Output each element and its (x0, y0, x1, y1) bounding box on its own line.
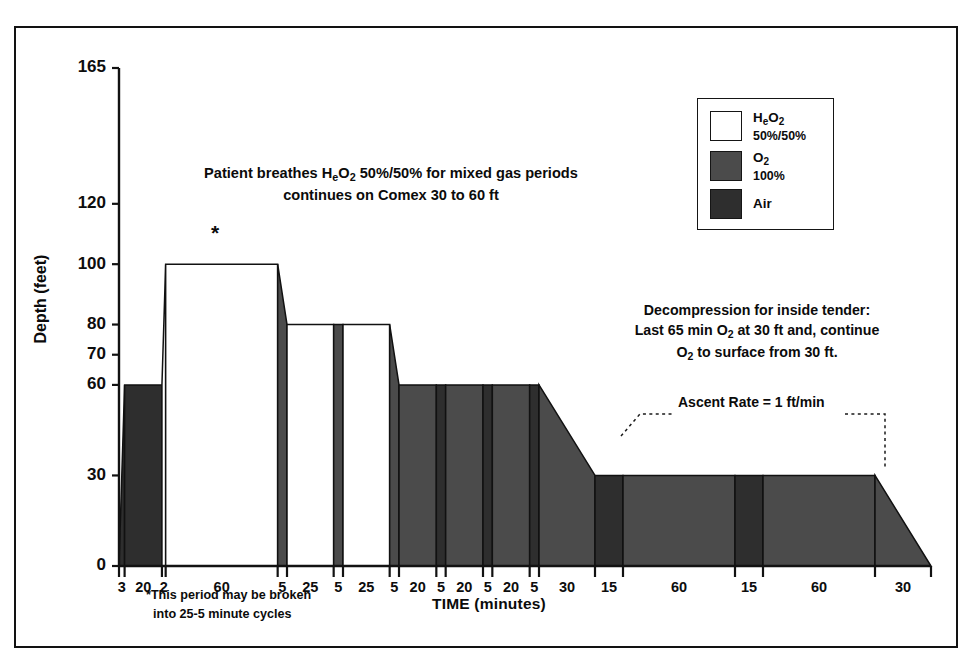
decomp-line-1: Decompression for inside tender: (644, 302, 870, 318)
legend-swatch-o2 (710, 151, 742, 181)
profile-segment (735, 475, 763, 566)
x-axis-tick-label: 20 (410, 579, 426, 595)
ascent-rate-label: Ascent Rate = 1 ft/min (678, 393, 825, 413)
profile-segment (278, 264, 287, 566)
legend-percent-heo2: 50%/50% (753, 128, 806, 144)
y-axis-tick-label: 0 (97, 555, 106, 574)
decompression-note: Decompression for inside tender: Last 65… (612, 300, 902, 364)
profile-segment (530, 385, 539, 566)
legend-percent-o2: 100% (753, 168, 785, 184)
x-axis-tick-label: 60 (811, 579, 827, 595)
x-axis-tick-label: 3 (118, 579, 126, 595)
x-axis-tick-label: 30 (559, 579, 575, 595)
x-axis-tick-label: 30 (895, 579, 911, 595)
profile-segment (166, 264, 278, 566)
asterisk-marker: * (211, 222, 219, 243)
profile-segment (446, 385, 483, 566)
profile-segment (763, 475, 875, 566)
profile-segment (492, 385, 529, 566)
profile-segment (399, 385, 436, 566)
legend-item-heo2: HeO2 50%/50% (710, 109, 806, 144)
x-axis-tick-label: 5 (390, 579, 398, 595)
decomp-line-3: O2 to surface from 30 ft. (676, 344, 837, 360)
y-axis-tick-label: 70 (87, 344, 106, 363)
legend-item-air: Air (710, 189, 772, 219)
y-axis-ticks: 030607080100120165 (78, 57, 119, 574)
x-axis-tick-label: 15 (741, 579, 757, 595)
x-axis-title: TIME (minutes) (432, 593, 546, 615)
x-axis-tick-label: 5 (334, 579, 342, 595)
y-axis-title: Depth (feet) (32, 239, 50, 359)
ascent-leader-left (621, 414, 672, 436)
profile-segment (343, 325, 390, 566)
legend-swatch-heo2 (710, 111, 742, 141)
y-axis-tick-label: 165 (78, 57, 106, 76)
profile-segment (334, 325, 343, 566)
footnote-line-1: This period may be broken (151, 588, 311, 602)
profile-segment (483, 385, 492, 566)
decompression-profile-figure: 030607080100120165 320260525525520520520… (0, 0, 978, 671)
ascent-rate-leaders (621, 414, 885, 470)
profile-segment (595, 475, 623, 566)
legend-label-heo2: HeO2 50%/50% (753, 109, 806, 144)
legend-label-air: Air (753, 195, 772, 212)
y-axis-tick-label: 120 (78, 193, 106, 212)
ascent-leader-right (845, 414, 885, 470)
x-axis-tick-label: 25 (358, 579, 374, 595)
x-axis-tick-label: 15 (601, 579, 617, 595)
footnote-line-2: into 25-5 minute cycles (146, 607, 292, 621)
profile-segment (287, 325, 334, 566)
footnote-note: *This period may be broken into 25-5 min… (146, 586, 311, 624)
profile-segment (539, 385, 595, 566)
profile-segment (436, 385, 445, 566)
legend-label-o2: O2 100% (753, 149, 785, 184)
y-axis-tick-label: 80 (87, 314, 106, 333)
legend-item-o2: O2 100% (710, 149, 785, 184)
decomp-line-2: Last 65 min O2 at 30 ft and, continue (635, 322, 880, 338)
profile-segment (875, 475, 931, 566)
mixed-gas-line-2: continues on Comex 30 to 60 ft (283, 187, 499, 203)
y-axis-tick-label: 100 (78, 254, 106, 273)
profile-segment (390, 325, 399, 566)
y-axis-tick-label: 30 (87, 465, 106, 484)
legend-swatch-air (710, 189, 742, 219)
profile-segment (623, 475, 735, 566)
y-axis-tick-label: 60 (87, 374, 106, 393)
mixed-gas-note: Patient breathes HeO2 50%/50% for mixed … (176, 163, 606, 206)
x-axis-tick-label: 60 (671, 579, 687, 595)
profile-segment (125, 385, 162, 566)
mixed-gas-line-1: Patient breathes HeO2 50%/50% for mixed … (204, 165, 578, 181)
gas-legend: HeO2 50%/50% O2 100% Air (697, 98, 834, 230)
